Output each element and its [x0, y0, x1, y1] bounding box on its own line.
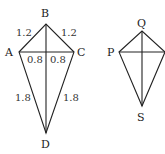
edge-label-cd: 1.8: [63, 92, 79, 103]
vertex-label-q: Q: [137, 17, 146, 30]
edge-label-bc: 1.2: [61, 27, 77, 38]
vertex-label-a: A: [4, 46, 14, 59]
edge-label-ab: 1.2: [16, 27, 32, 38]
vertex-label-s: S: [137, 111, 145, 124]
edge-label-ad: 1.8: [15, 92, 31, 103]
kite-abcd: B A C D 1.2 1.2 0.8 0.8 1.8 1.8: [4, 7, 85, 151]
kite-diagrams: B A C D 1.2 1.2 0.8 0.8 1.8 1.8 Q P S: [0, 0, 165, 154]
kite-pqrs: Q P S: [107, 17, 165, 124]
vertex-label-c: C: [77, 46, 85, 59]
vertex-label-b: B: [41, 7, 49, 20]
vertex-label-d: D: [41, 138, 50, 151]
edge-label-ao: 0.8: [27, 54, 43, 65]
edge-label-oc: 0.8: [50, 54, 66, 65]
vertex-label-p: P: [107, 46, 115, 59]
